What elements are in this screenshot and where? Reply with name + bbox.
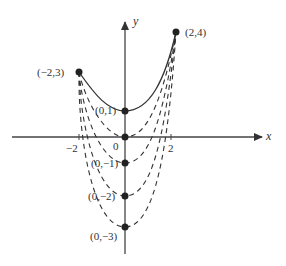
label-point-neg2-3: (−2,3) <box>37 66 65 79</box>
y-axis-label: y <box>132 14 139 28</box>
point-0-1 <box>122 108 129 115</box>
point-2-4 <box>173 29 180 36</box>
solid-curve <box>79 32 176 111</box>
point-origin <box>122 134 129 141</box>
x-axis-label: x <box>265 129 272 143</box>
point-0-neg1 <box>122 160 129 167</box>
point-neg2-3 <box>76 69 83 76</box>
dashed-curve-3 <box>79 32 176 196</box>
point-0-neg2 <box>122 193 129 200</box>
x-tick-label-neg2: −2 <box>66 142 78 154</box>
label-point-0-neg3: (0,−3) <box>90 230 118 243</box>
label-point-0-neg2: (0,−2) <box>88 190 116 203</box>
dashed-curve-2 <box>79 32 176 163</box>
point-0-neg3 <box>122 224 129 231</box>
label-point-0-neg1: (0,−1) <box>91 157 119 170</box>
graph-figure: y x 0 −2 2 (2,4) (−2,3) (0,1) (0,−1) (0,… <box>0 0 286 266</box>
x-tick-label-2: 2 <box>168 142 174 154</box>
origin-label: 0 <box>113 140 119 152</box>
dashed-curve-1 <box>79 32 176 137</box>
label-point-2-4: (2,4) <box>185 26 206 39</box>
label-point-0-1: (0,1) <box>95 104 116 117</box>
graph-canvas: y x 0 −2 2 (2,4) (−2,3) (0,1) (0,−1) (0,… <box>0 0 286 266</box>
